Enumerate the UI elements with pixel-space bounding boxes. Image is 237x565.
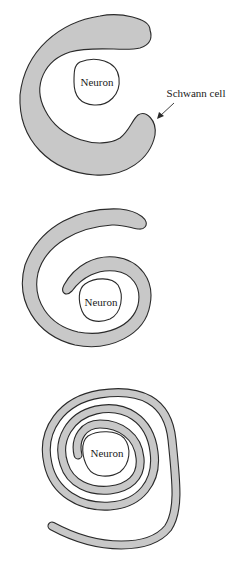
neuron-label: Neuron (81, 76, 114, 88)
neuron-label: Neuron (85, 296, 118, 308)
panel-stage-2: Neuron (0, 185, 237, 360)
schwann-cell-label: Schwann cell (167, 87, 226, 99)
schwann-cell-myelin-wrap-diagram: Neuron (0, 360, 237, 565)
schwann-cell-c-shape-diagram: Neuron Schwann cell (0, 0, 237, 185)
schwann-cell-partial-wrap-diagram: Neuron (0, 185, 237, 360)
neuron-label: Neuron (91, 447, 124, 459)
panel-stage-1: Neuron Schwann cell (0, 0, 237, 185)
panel-stage-3: Neuron (0, 360, 237, 565)
callout-arrow-line (160, 103, 174, 116)
schwann-cell-shape (22, 209, 151, 347)
